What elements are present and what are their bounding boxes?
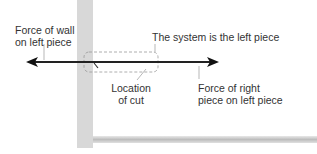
right-force-label: Force of right piece on left piece [198, 82, 283, 106]
wall-force-label-line1: Force of wall [15, 24, 75, 36]
right-force-label-line1: Force of right [198, 82, 283, 94]
cut-location-label: Location of cut [102, 82, 160, 106]
wall [77, 0, 93, 148]
cut-marker [94, 63, 98, 68]
wall-force-label: Force of wall on left piece [15, 24, 75, 48]
wall-force-label-line2: on left piece [15, 36, 75, 48]
floor-beam [93, 136, 317, 143]
system-label: The system is the left piece [152, 31, 279, 43]
cut-leader-line [137, 69, 146, 80]
right-force-label-line2: piece on left piece [198, 94, 283, 106]
cut-location-label-line1: Location [102, 82, 160, 94]
cut-location-label-line2: of cut [102, 94, 160, 106]
